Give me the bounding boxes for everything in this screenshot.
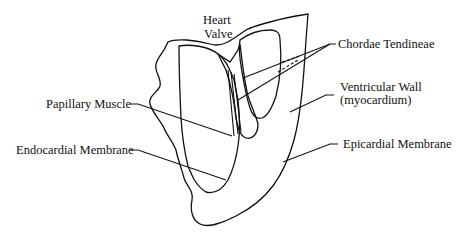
heart-valve-label-line1: Heart <box>203 13 231 27</box>
epicardial-membrane-label: Epicardial Membrane <box>343 137 452 151</box>
chordae-tendineae-label: Chordae Tendineae <box>338 37 435 51</box>
chordae-tendineae-leaders <box>238 44 336 100</box>
right-chamber <box>239 30 281 118</box>
heart-ventricle-diagram: Heart Valve Chordae Tendineae Papillary … <box>0 0 459 237</box>
ventricular-wall-label-line1: Ventricular Wall <box>340 80 422 94</box>
endocardial-membrane-label: Endocardial Membrane <box>16 143 134 157</box>
ventricular-wall-shape <box>150 14 308 226</box>
ventricular-wall-label-line2: (myocardium) <box>340 93 412 107</box>
papillary-muscle-label: Papillary Muscle <box>46 97 132 111</box>
endocardial-membrane-leader <box>130 150 226 180</box>
ventricular-wall-leader <box>290 95 334 112</box>
epicardial-membrane-leader <box>283 144 338 162</box>
left-chamber <box>179 45 240 192</box>
heart-valve-label-line2: Valve <box>204 27 233 41</box>
